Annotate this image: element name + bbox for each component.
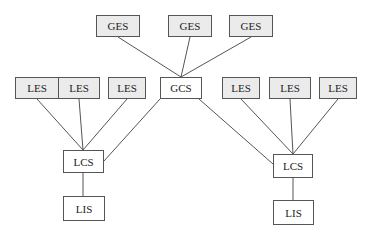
node-label: LIS: [76, 203, 93, 215]
edge-les2-lcs1: [79, 99, 83, 150]
node-label: LES: [117, 82, 137, 94]
node-label: LES: [69, 82, 89, 94]
edge-ges1-gcs: [118, 37, 181, 77]
edge-les6-lcs2: [293, 99, 338, 154]
node-label: LES: [328, 82, 348, 94]
node-label: LIS: [285, 207, 302, 219]
edge-les5-lcs2: [290, 99, 293, 154]
node-les3: LES: [108, 77, 146, 99]
node-label: GES: [108, 20, 129, 32]
node-label: GES: [180, 20, 201, 32]
node-les2: LES: [58, 77, 100, 99]
node-label: LCS: [283, 160, 303, 172]
node-label: LES: [231, 82, 251, 94]
edge-ges3-gcs: [181, 37, 251, 77]
node-label: GCS: [170, 82, 191, 94]
edge-gcs-lcs2: [199, 99, 273, 164]
node-label: LCS: [73, 156, 93, 168]
node-label: LES: [27, 82, 47, 94]
node-lis1: LIS: [63, 196, 105, 221]
edge-ges2-gcs: [181, 37, 190, 77]
node-les4: LES: [222, 77, 260, 99]
node-gcs: GCS: [160, 77, 202, 99]
edge-gcs-lcs1: [104, 99, 160, 161]
node-lis2: LIS: [273, 200, 314, 225]
node-label: LES: [280, 82, 300, 94]
edge-les1-lcs1: [37, 99, 83, 150]
node-ges2: GES: [168, 15, 212, 37]
node-lcs1: LCS: [63, 150, 104, 173]
node-les5: LES: [269, 77, 311, 99]
edge-les4-lcs2: [241, 99, 293, 154]
node-les6: LES: [319, 77, 357, 99]
node-ges1: GES: [96, 15, 140, 37]
node-les1: LES: [15, 77, 59, 99]
node-ges3: GES: [229, 15, 273, 37]
node-label: GES: [241, 20, 262, 32]
node-lcs2: LCS: [273, 154, 313, 178]
